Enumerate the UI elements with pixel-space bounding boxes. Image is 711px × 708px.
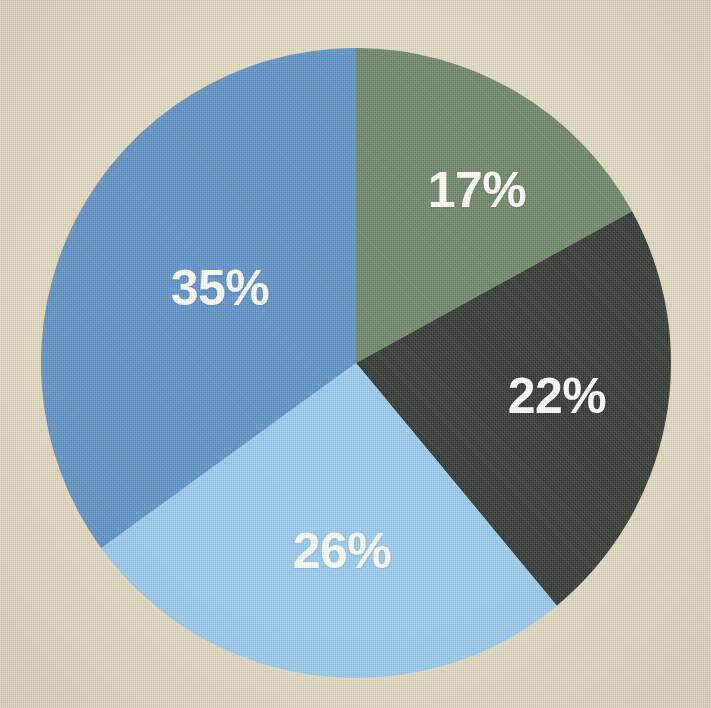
- pie-slice-label-26: 26%: [293, 526, 392, 576]
- pie-chart: [0, 0, 711, 708]
- pie-chart-poster: 17%22%26%35%: [0, 0, 711, 708]
- pie-slice-label-35: 35%: [171, 263, 270, 313]
- pie-slice-label-22: 22%: [508, 371, 607, 421]
- pie-slice-label-17: 17%: [428, 165, 527, 215]
- pie-slice-group: [41, 48, 671, 678]
